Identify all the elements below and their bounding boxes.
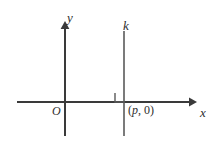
line-k-label: k (123, 19, 129, 32)
x-axis-arrowhead-icon (189, 98, 197, 107)
x-axis-label: x (200, 106, 206, 119)
right-angle-marker-icon (115, 93, 124, 102)
point-paren-rest: , 0) (138, 103, 154, 117)
origin-label: O (52, 105, 61, 117)
y-axis (61, 21, 70, 136)
coordinate-axes-figure: y k x O (p, 0) (0, 0, 216, 146)
figure-canvas (0, 0, 216, 146)
y-axis-label: y (67, 11, 73, 24)
intercept-point-label: (p, 0) (128, 104, 154, 116)
x-axis (17, 98, 197, 107)
